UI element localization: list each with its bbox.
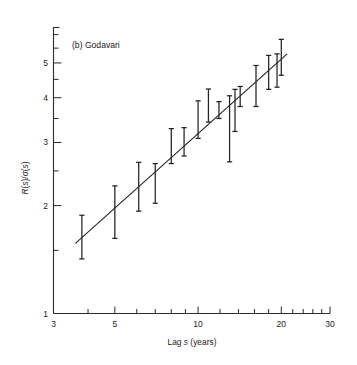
x-tick-label: 30 — [325, 319, 335, 329]
y-tick-label: 2 — [43, 201, 48, 211]
y-tick-label: 3 — [43, 137, 48, 147]
error-bar-series — [79, 39, 284, 259]
x-tick-label: 5 — [112, 319, 117, 329]
error-bar-point — [112, 186, 117, 239]
y-axis-title: R(s)/σ(s) — [20, 161, 30, 194]
y-tick-label: 5 — [43, 58, 48, 68]
error-bar-point — [169, 129, 174, 164]
x-axis: 35102030 — [51, 307, 335, 330]
y-axis: 12345 — [43, 27, 61, 319]
y-tick-label: 1 — [43, 309, 48, 319]
x-tick-label: 3 — [51, 319, 56, 329]
error-bar-point — [181, 128, 186, 156]
rescaled-range-log-log-plot: 12345 35102030 (b) Godavari R(s)/σ(s) La… — [0, 0, 357, 365]
error-bar-point — [195, 101, 200, 139]
x-tick-label: 10 — [193, 319, 203, 329]
error-bar-point — [274, 54, 279, 87]
x-tick-label-group: 35102030 — [51, 319, 335, 329]
y-tick-label-group: 12345 — [43, 58, 48, 319]
x-tick-label: 20 — [277, 319, 287, 329]
regression-fit-line — [75, 54, 287, 243]
error-bar-point — [253, 65, 258, 106]
error-bar-point — [206, 89, 211, 122]
x-axis-title: Lag s (years) — [168, 337, 217, 347]
panel-title: (b) Godavari — [72, 40, 120, 50]
y-tick-label: 4 — [43, 93, 48, 103]
y-axis-title-text: R(s)/σ(s) — [20, 161, 30, 194]
x-axis-title-text: Lag s (years) — [168, 337, 217, 347]
y-tick-group — [54, 35, 62, 314]
figure-container: 12345 35102030 (b) Godavari R(s)/σ(s) La… — [0, 0, 357, 365]
x-tick-group — [54, 307, 331, 314]
error-bar-point — [232, 89, 237, 131]
